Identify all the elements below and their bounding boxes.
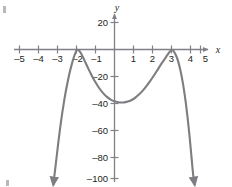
x-tick-label--3: –3	[52, 53, 63, 64]
axes-group	[14, 14, 208, 182]
x-tick-label--1: –1	[91, 53, 102, 64]
y-tick-label--40: –40	[92, 98, 108, 109]
x-tick-label--5: –5	[14, 53, 25, 64]
x-tick-label-4: 4	[188, 53, 193, 64]
corner-speck-bottom-left	[6, 180, 9, 186]
x-tick-label-2: 2	[150, 53, 155, 64]
y-tick-label--60: –60	[92, 125, 108, 136]
y-tick-label--80: –80	[92, 152, 108, 163]
graph-figure: –5 –4 –3 –2 –1 1 2 3 4 5 20 –20 –40 –60 …	[0, 0, 232, 187]
x-tick-label-1: 1	[131, 53, 136, 64]
coordinate-plane: –5 –4 –3 –2 –1 1 2 3 4 5 20 –20 –40 –60 …	[0, 0, 232, 187]
y-tick-label--100: –100	[87, 173, 108, 184]
x-tick-label-5: 5	[203, 53, 208, 64]
corner-speck-top-left	[3, 6, 6, 13]
x-axis-label: x	[215, 44, 221, 55]
y-tick-labels: 20 –20 –40 –60 –80 –100	[87, 17, 108, 184]
y-axis-label: y	[114, 2, 120, 13]
x-tick-label--4: –4	[33, 53, 44, 64]
y-tick-label-20: 20	[97, 17, 108, 28]
x-tick-label-3: 3	[169, 53, 174, 64]
function-curve	[53, 50, 194, 185]
